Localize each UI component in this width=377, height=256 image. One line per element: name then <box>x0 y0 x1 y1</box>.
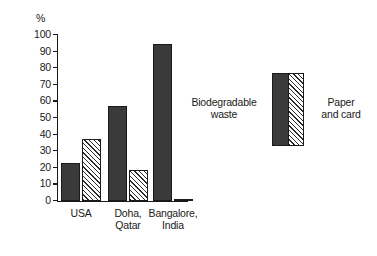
y-axis-tick-label: 40 <box>40 128 51 139</box>
legend-label-biodegradable-waste: Biodegradable waste <box>184 96 264 120</box>
y-axis-tick-label: 100 <box>34 29 51 40</box>
y-axis-tick-mark <box>53 117 57 118</box>
y-axis-tick-mark <box>53 67 57 68</box>
bar-1-1 <box>61 163 80 201</box>
y-axis-tick-mark <box>53 134 57 135</box>
bar-2-1 <box>108 106 127 201</box>
y-axis-tick-label: 50 <box>40 112 51 123</box>
bar-chart-figure: % 0102030405060708090100 USADoha, QatarB… <box>0 0 377 256</box>
bar-2-2 <box>129 170 148 201</box>
legend-swatch-biodegradable-waste <box>273 74 288 145</box>
y-axis-tick-mark <box>53 100 57 101</box>
bar-3-1 <box>153 44 172 201</box>
y-axis-tick-mark <box>53 200 57 201</box>
y-axis-tick-label: 90 <box>40 45 51 56</box>
y-axis-tick-label: 80 <box>40 62 51 73</box>
bar-3-2 <box>174 199 193 201</box>
x-axis-label-3: Bangalore, India <box>135 208 211 231</box>
y-axis-tick-mark <box>53 84 57 85</box>
y-axis-tick-label: 60 <box>40 95 51 106</box>
legend-label-paper-and-card: Paper and card <box>310 96 372 120</box>
y-axis-tick-mark <box>53 150 57 151</box>
plot-area: 0102030405060708090100 <box>57 34 188 202</box>
y-axis-tick-label: 0 <box>45 195 51 206</box>
y-axis-tick-label: 70 <box>40 79 51 90</box>
y-axis-tick-mark <box>53 34 57 35</box>
legend-swatch-paper-and-card <box>288 74 303 145</box>
y-axis-tick-mark <box>53 51 57 52</box>
y-axis-tick-label: 30 <box>40 145 51 156</box>
x-axis-line <box>57 201 188 202</box>
y-axis-unit-label: % <box>36 13 45 24</box>
y-axis-line <box>57 34 58 202</box>
y-axis-tick-mark <box>53 167 57 168</box>
chart-legend: Biodegradable waste Paper and card <box>196 70 377 150</box>
legend-swatch <box>272 73 304 146</box>
bar-1-2 <box>82 139 101 201</box>
y-axis-tick-label: 10 <box>40 178 51 189</box>
y-axis-tick-mark <box>53 183 57 184</box>
y-axis-tick-label: 20 <box>40 162 51 173</box>
